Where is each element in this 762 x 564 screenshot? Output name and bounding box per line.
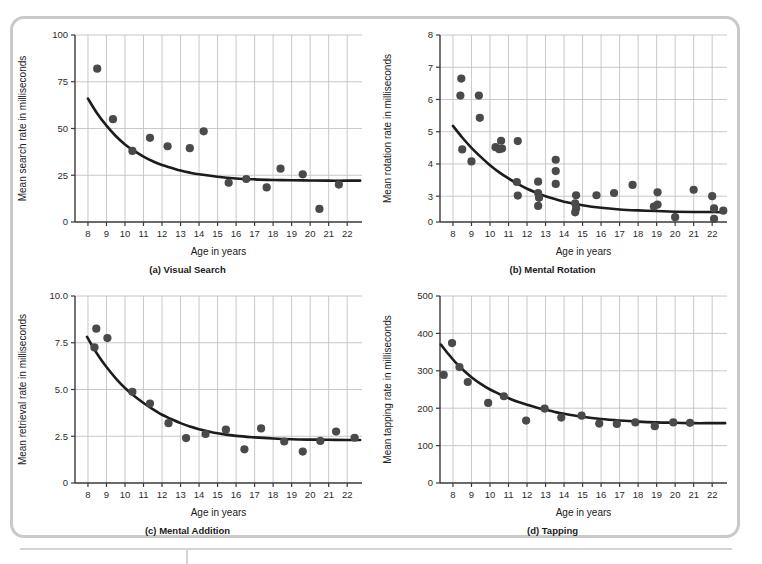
panel-grid: 02550751008910111213141516171819202122Ag… <box>13 19 743 541</box>
y-tick-label: 2.5 <box>55 431 68 442</box>
x-tick-label: 17 <box>614 489 625 500</box>
x-tick-label: 16 <box>231 489 242 500</box>
x-tick-label: 15 <box>212 228 223 239</box>
data-point <box>653 200 661 208</box>
x-tick-label: 14 <box>559 489 570 500</box>
x-tick-label: 18 <box>633 228 644 239</box>
y-tick-label: 10.0 <box>50 290 69 301</box>
x-tick-label: 20 <box>305 228 316 239</box>
x-tick-label: 16 <box>231 228 242 239</box>
data-point <box>719 207 727 215</box>
page-bottom-rule <box>20 548 732 550</box>
chart-c: 02.55.07.510.089101112131415161718192021… <box>13 280 378 541</box>
x-tick-label: 16 <box>596 489 607 500</box>
data-point <box>146 134 154 142</box>
fit-curve <box>88 99 360 181</box>
figure-frame: 02550751008910111213141516171819202122Ag… <box>10 16 740 538</box>
data-point <box>541 404 549 412</box>
x-tick-label: 15 <box>212 489 223 500</box>
x-tick-label: 10 <box>120 489 131 500</box>
y-tick-label: 300 <box>417 365 433 376</box>
x-tick-label: 22 <box>707 228 718 239</box>
data-point <box>686 419 694 427</box>
data-point <box>500 392 508 400</box>
y-axis-ticks: 0255075100 <box>52 29 75 227</box>
x-tick-label: 22 <box>342 228 353 239</box>
y-tick-label: 100 <box>417 440 433 451</box>
data-point <box>263 183 271 191</box>
gridlines <box>75 35 362 222</box>
fit-curve <box>453 126 725 212</box>
x-tick-label: 20 <box>670 228 681 239</box>
data-point <box>467 157 475 165</box>
x-tick-label: 17 <box>249 228 260 239</box>
y-tick-label: 6 <box>428 94 433 105</box>
y-tick-label: 100 <box>52 29 68 40</box>
y-axis-ticks: 02.55.07.510.0 <box>50 290 76 488</box>
data-point <box>182 434 190 442</box>
data-point <box>578 412 586 420</box>
data-point <box>497 137 505 145</box>
data-point <box>552 167 560 175</box>
x-tick-label: 19 <box>651 489 662 500</box>
data-point <box>669 418 677 426</box>
data-point <box>514 191 522 199</box>
data-point <box>572 191 580 199</box>
x-tick-label: 17 <box>249 489 260 500</box>
y-tick-label: 5 <box>428 126 433 137</box>
x-tick-label: 10 <box>485 489 496 500</box>
x-tick-label: 8 <box>85 228 90 239</box>
data-point <box>242 175 250 183</box>
data-point <box>128 388 136 396</box>
x-tick-label: 11 <box>504 228 514 239</box>
data-point <box>595 419 603 427</box>
x-tick-label: 10 <box>485 228 496 239</box>
y-tick-label: 50 <box>57 123 68 134</box>
data-point <box>440 371 448 379</box>
panel-caption-d: (d) Tapping <box>378 525 727 536</box>
data-point <box>455 363 463 371</box>
y-tick-label: 200 <box>417 403 433 414</box>
axes <box>440 35 727 222</box>
data-point <box>186 144 194 152</box>
data-point <box>201 430 209 438</box>
data-point <box>315 205 323 213</box>
data-points <box>456 74 727 222</box>
data-point <box>448 339 456 347</box>
x-tick-label: 8 <box>450 228 455 239</box>
x-tick-label: 13 <box>175 228 186 239</box>
chart-d: 0100200300400500891011121314151617181920… <box>378 280 743 541</box>
y-tick-label: 3 <box>428 191 433 202</box>
data-point <box>628 181 636 189</box>
x-tick-label: 9 <box>104 228 109 239</box>
data-point <box>710 204 718 212</box>
data-point <box>651 422 659 430</box>
data-point <box>109 115 117 123</box>
panel-mental-addition: 02.55.07.510.089101112131415161718192021… <box>13 280 378 541</box>
y-tick-label: 5.0 <box>55 384 68 395</box>
data-point <box>557 413 565 421</box>
y-tick-label: 7 <box>428 62 433 73</box>
data-point <box>257 424 265 432</box>
y-tick-label: 8 <box>428 29 433 40</box>
x-tick-label: 20 <box>670 489 681 500</box>
gridlines <box>75 296 362 483</box>
x-tick-label: 9 <box>104 489 109 500</box>
data-point <box>476 114 484 122</box>
data-point <box>332 427 340 435</box>
x-tick-label: 12 <box>157 228 168 239</box>
data-point <box>456 92 464 100</box>
data-point <box>335 181 343 189</box>
data-point <box>610 189 618 197</box>
fit-curve <box>441 345 725 424</box>
x-axis-ticks: 8910111213141516171819202122 <box>85 222 352 239</box>
x-tick-label: 20 <box>305 489 316 500</box>
y-axis-title: Mean tapping rate in milliseconds <box>382 315 393 463</box>
x-tick-label: 14 <box>194 228 205 239</box>
x-tick-label: 13 <box>175 489 186 500</box>
y-axis-ticks: 0345678 <box>428 29 440 227</box>
x-tick-label: 15 <box>577 228 588 239</box>
data-point <box>316 437 324 445</box>
x-tick-label: 22 <box>342 489 353 500</box>
data-point <box>708 192 716 200</box>
